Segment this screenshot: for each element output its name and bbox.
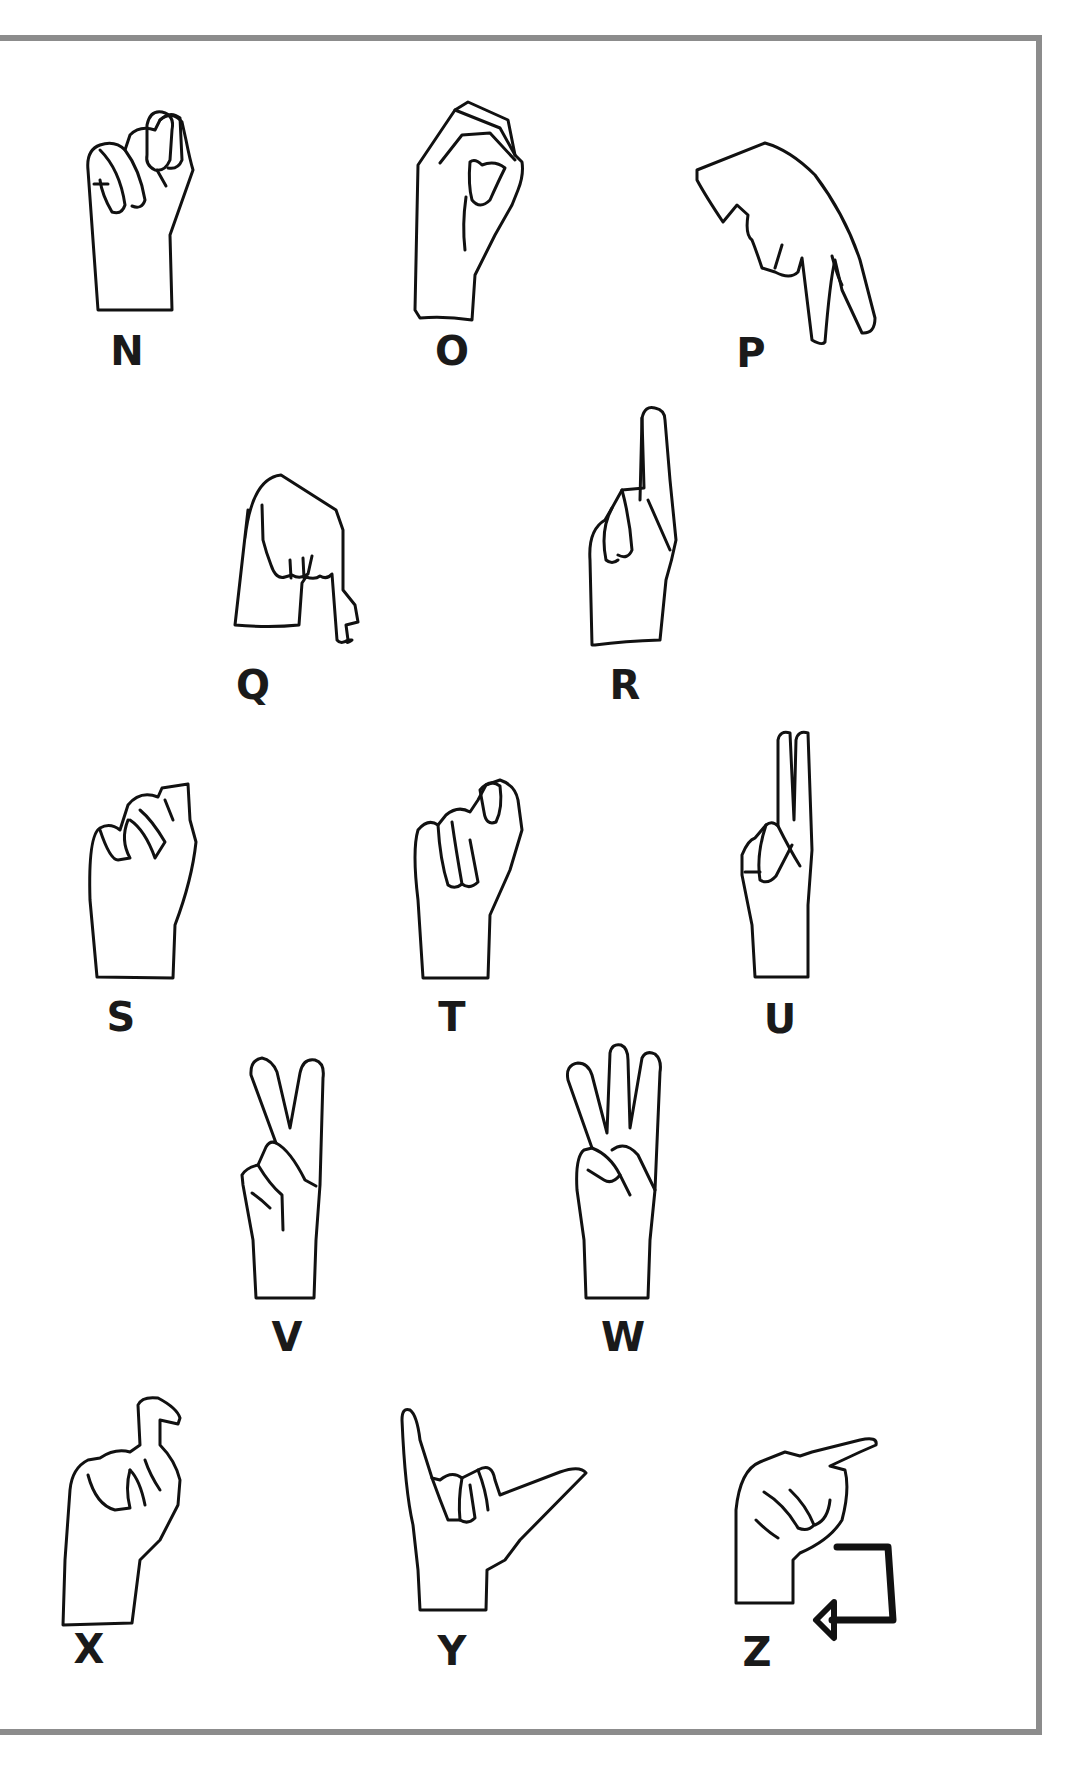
letter-label-r: R <box>595 665 655 705</box>
asl-x-hand-icon <box>63 1398 180 1625</box>
letter-label-u: U <box>750 999 810 1039</box>
asl-u-hand-icon <box>742 732 812 977</box>
letter-label-z: Z <box>727 1632 787 1672</box>
asl-alphabet-illustrations <box>0 0 1090 1770</box>
asl-o-hand-icon <box>415 102 523 320</box>
letter-label-x: X <box>59 1629 119 1669</box>
letter-label-p: P <box>721 333 781 373</box>
asl-r-hand-icon <box>590 407 676 645</box>
asl-n-hand-icon <box>88 112 193 310</box>
letter-label-y: Y <box>422 1631 482 1671</box>
letter-label-w: W <box>593 1317 653 1357</box>
letter-label-v: V <box>257 1317 317 1357</box>
asl-s-hand-icon <box>90 784 196 978</box>
asl-p-hand-icon <box>697 143 875 344</box>
letter-label-n: N <box>97 331 157 371</box>
z-motion-arrow-icon <box>816 1547 893 1638</box>
asl-t-hand-icon <box>415 780 522 978</box>
asl-z-hand-icon <box>736 1439 876 1603</box>
asl-w-hand-icon <box>567 1045 660 1298</box>
letter-label-s: S <box>91 997 151 1037</box>
letter-label-q: Q <box>223 665 283 705</box>
asl-q-hand-icon <box>235 475 358 643</box>
asl-y-hand-icon <box>402 1409 586 1610</box>
letter-label-o: O <box>422 331 482 371</box>
asl-v-hand-icon <box>242 1058 323 1298</box>
letter-label-t: T <box>422 997 482 1037</box>
